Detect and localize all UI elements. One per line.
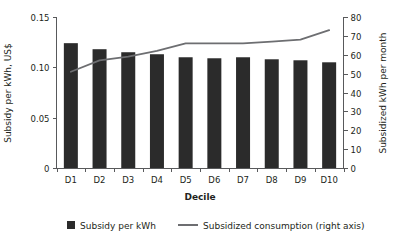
right-axis-ticks: 01020304050607080 [344, 13, 362, 174]
x-tick-label: D2 [94, 175, 106, 185]
bar-D6 [207, 58, 221, 168]
right-tick-label: 70 [351, 32, 362, 42]
legend-square-marker [67, 221, 75, 229]
left-tick-label: 0.15 [31, 13, 50, 23]
x-axis: D1D2D3D4D5D6D7D8D9D10 Decile [57, 168, 345, 202]
left-tick-label: 0.10 [31, 63, 50, 73]
right-tick-label: 60 [351, 51, 362, 61]
bar-D2 [93, 49, 107, 168]
x-tick-label: D10 [320, 175, 337, 185]
legend-label-subsidized-consumption: Subsidized consumption (right axis) [203, 221, 365, 231]
x-tick-label: D5 [180, 175, 192, 185]
left-axis: 00.050.100.15 Subsidy per kWh, US$ [3, 13, 57, 174]
bar-D5 [179, 57, 193, 168]
right-axis-title: Subsidized kWh per month [378, 32, 388, 153]
left-axis-ticks: 00.050.100.15 [31, 13, 57, 174]
x-tick-label: D8 [266, 175, 278, 185]
x-tick-label: D4 [151, 175, 163, 185]
left-axis-title: Subsidy per kWh, US$ [3, 43, 13, 143]
left-tick-label: 0.05 [31, 114, 50, 124]
legend-label-subsidy-per-kwh: Subsidy per kWh [80, 221, 156, 231]
chart-legend: Subsidy per kWh Subsidized consumption (… [67, 221, 365, 231]
right-tick-label: 20 [351, 126, 362, 136]
bar-D4 [150, 54, 164, 168]
bar-D3 [121, 52, 135, 168]
right-tick-label: 0 [351, 164, 356, 174]
chart-figure: 00.050.100.15 Subsidy per kWh, US$ 01020… [0, 0, 395, 238]
bar-D1 [64, 43, 78, 168]
right-tick-label: 80 [351, 13, 362, 23]
bar-D10 [322, 62, 336, 168]
bar-D7 [236, 57, 250, 168]
x-axis-title: Decile [184, 192, 215, 202]
line-series-subsidized-consumption [71, 30, 329, 72]
x-tick-label: D9 [294, 175, 306, 185]
bar-series-subsidy-per-kwh [64, 43, 336, 168]
right-tick-label: 50 [351, 70, 362, 80]
chart-canvas: 00.050.100.15 Subsidy per kWh, US$ 01020… [0, 0, 395, 238]
x-tick-label: D6 [208, 175, 220, 185]
bar-D8 [265, 59, 279, 168]
right-tick-label: 10 [351, 145, 362, 155]
x-tick-label: D3 [122, 175, 134, 185]
left-tick-label: 0 [44, 164, 49, 174]
x-tick-label: D1 [65, 175, 77, 185]
right-axis: 01020304050607080 Subsidized kWh per mon… [344, 13, 389, 174]
right-tick-label: 30 [351, 107, 362, 117]
x-tick-label: D7 [237, 175, 249, 185]
right-tick-label: 40 [351, 89, 362, 99]
x-axis-tick-labels: D1D2D3D4D5D6D7D8D9D10 [65, 175, 338, 185]
bar-D9 [293, 60, 307, 168]
